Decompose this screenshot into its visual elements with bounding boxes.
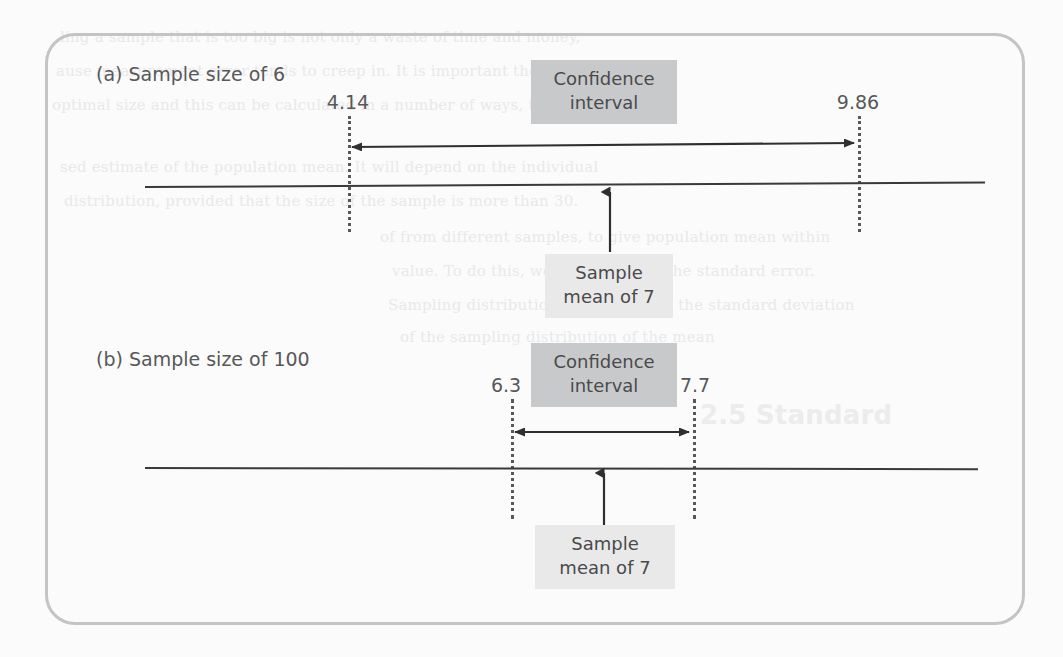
panel-b-upper-bound-guide [693, 399, 696, 519]
panel-a-lower-bound-label: 4.14 [315, 91, 381, 113]
panel-a-sample-mean-callout: Sample mean of 7 [545, 254, 673, 318]
panel-a-upper-bound-guide [858, 116, 861, 232]
panel-a-upper-bound-label: 9.86 [825, 91, 891, 113]
panel-a-label: (a) Sample size of 6 [96, 63, 285, 85]
panel-b-ci-callout-line-2: interval [545, 374, 663, 398]
panel-b-confidence-interval-callout: Confidence interval [531, 343, 677, 407]
panel-a-mean-callout-line-2: mean of 7 [559, 285, 659, 309]
panel-a-confidence-interval-callout: Confidence interval [531, 60, 677, 124]
panel-a-mean-callout-line-1: Sample [559, 261, 659, 285]
figure-page: ling a sample that is too big is not onl… [0, 0, 1063, 657]
panel-b-mean-callout-line-1: Sample [549, 532, 661, 556]
panel-b-sample-mean-callout: Sample mean of 7 [535, 525, 675, 589]
panel-b-ci-callout-line-1: Confidence [545, 350, 663, 374]
panel-b-lower-bound-guide [511, 399, 514, 519]
panel-b-lower-bound-label: 6.3 [478, 374, 534, 396]
panel-a-ci-callout-line-1: Confidence [545, 67, 663, 91]
panel-a-lower-bound-guide [348, 116, 351, 232]
panel-b-label: (b) Sample size of 100 [96, 348, 310, 370]
panel-b-mean-callout-line-2: mean of 7 [549, 556, 661, 580]
panel-a-ci-callout-line-2: interval [545, 91, 663, 115]
